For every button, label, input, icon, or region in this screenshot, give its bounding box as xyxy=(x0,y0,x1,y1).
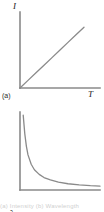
panel-b: λ T (b) xyxy=(0,104,104,212)
panel-a-y-axis-label: I xyxy=(13,2,16,11)
two-panel-figure: I T (a) λ T (b) (a) Intensity (b) Wavele… xyxy=(0,0,104,212)
panel-b-data-curve xyxy=(23,115,100,186)
panel-a-x-axis-label: T xyxy=(88,90,93,99)
panel-a-data-line xyxy=(20,27,84,88)
panel-b-plot xyxy=(0,104,104,212)
cropped-caption-strip: (a) Intensity (b) Wavelength xyxy=(0,203,104,212)
panel-a: I T (a) xyxy=(0,0,104,104)
panel-a-tag: (a) xyxy=(2,92,11,99)
